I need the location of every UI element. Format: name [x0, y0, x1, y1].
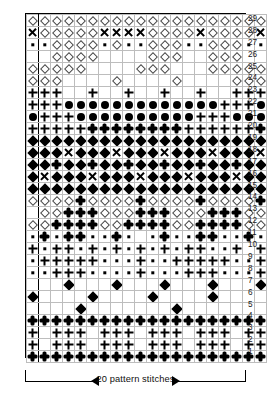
chart-cell[interactable]	[27, 147, 39, 159]
chart-cell[interactable]	[39, 159, 51, 171]
chart-cell[interactable]	[39, 39, 51, 51]
chart-cell[interactable]	[63, 51, 75, 63]
chart-cell[interactable]	[39, 243, 51, 255]
chart-cell[interactable]	[27, 303, 39, 315]
chart-cell[interactable]	[63, 279, 75, 291]
chart-cell[interactable]	[99, 63, 111, 75]
chart-cell[interactable]	[87, 123, 99, 135]
chart-cell[interactable]	[219, 51, 231, 63]
chart-cell[interactable]	[147, 75, 159, 87]
chart-cell[interactable]	[171, 183, 183, 195]
chart-cell[interactable]	[123, 327, 135, 339]
chart-cell[interactable]	[147, 39, 159, 51]
chart-cell[interactable]	[207, 123, 219, 135]
chart-cell[interactable]	[207, 351, 219, 363]
chart-cell[interactable]	[147, 231, 159, 243]
chart-cell[interactable]	[87, 183, 99, 195]
chart-cell[interactable]	[183, 39, 195, 51]
chart-cell[interactable]	[75, 27, 87, 39]
chart-cell[interactable]	[135, 87, 147, 99]
chart-cell[interactable]	[207, 231, 219, 243]
chart-cell[interactable]	[135, 195, 147, 207]
chart-cell[interactable]	[75, 171, 87, 183]
chart-cell[interactable]	[111, 111, 123, 123]
chart-cell[interactable]	[195, 51, 207, 63]
chart-cell[interactable]	[231, 303, 243, 315]
chart-cell[interactable]	[75, 351, 87, 363]
chart-cell[interactable]	[195, 255, 207, 267]
chart-cell[interactable]	[195, 123, 207, 135]
chart-cell[interactable]	[135, 15, 147, 27]
chart-cell[interactable]	[195, 351, 207, 363]
chart-cell[interactable]	[123, 159, 135, 171]
chart-cell[interactable]	[171, 339, 183, 351]
chart-cell[interactable]	[87, 159, 99, 171]
chart-cell[interactable]	[63, 327, 75, 339]
chart-cell[interactable]	[195, 111, 207, 123]
chart-cell[interactable]	[123, 243, 135, 255]
chart-cell[interactable]	[147, 327, 159, 339]
chart-cell[interactable]	[39, 111, 51, 123]
chart-cell[interactable]	[39, 135, 51, 147]
chart-cell[interactable]	[123, 39, 135, 51]
chart-cell[interactable]	[207, 159, 219, 171]
chart-cell[interactable]	[51, 171, 63, 183]
chart-cell[interactable]	[99, 75, 111, 87]
chart-cell[interactable]	[87, 15, 99, 27]
chart-cell[interactable]	[63, 183, 75, 195]
chart-cell[interactable]	[51, 231, 63, 243]
chart-cell[interactable]	[183, 267, 195, 279]
chart-cell[interactable]	[147, 111, 159, 123]
chart-cell[interactable]	[219, 111, 231, 123]
chart-cell[interactable]	[231, 171, 243, 183]
chart-cell[interactable]	[75, 87, 87, 99]
chart-cell[interactable]	[51, 75, 63, 87]
chart-cell[interactable]	[231, 147, 243, 159]
chart-cell[interactable]	[63, 267, 75, 279]
chart-cell[interactable]	[135, 159, 147, 171]
chart-cell[interactable]	[135, 27, 147, 39]
chart-cell[interactable]	[111, 267, 123, 279]
chart-cell[interactable]	[75, 303, 87, 315]
chart-cell[interactable]	[135, 267, 147, 279]
chart-cell[interactable]	[75, 315, 87, 327]
chart-cell[interactable]	[123, 147, 135, 159]
chart-cell[interactable]	[51, 207, 63, 219]
chart-cell[interactable]	[159, 255, 171, 267]
chart-cell[interactable]	[75, 243, 87, 255]
chart-cell[interactable]	[75, 231, 87, 243]
chart-cell[interactable]	[159, 231, 171, 243]
chart-cell[interactable]	[99, 303, 111, 315]
chart-cell[interactable]	[39, 315, 51, 327]
chart-cell[interactable]	[219, 351, 231, 363]
chart-cell[interactable]	[171, 255, 183, 267]
chart-cell[interactable]	[159, 99, 171, 111]
chart-cell[interactable]	[195, 243, 207, 255]
chart-cell[interactable]	[99, 351, 111, 363]
chart-cell[interactable]	[219, 267, 231, 279]
chart-cell[interactable]	[159, 207, 171, 219]
chart-cell[interactable]	[147, 147, 159, 159]
chart-cell[interactable]	[147, 99, 159, 111]
chart-cell[interactable]	[75, 195, 87, 207]
chart-cell[interactable]	[123, 267, 135, 279]
chart-cell[interactable]	[39, 339, 51, 351]
chart-cell[interactable]	[195, 183, 207, 195]
chart-cell[interactable]	[147, 255, 159, 267]
chart-cell[interactable]	[51, 183, 63, 195]
chart-cell[interactable]	[99, 219, 111, 231]
chart-cell[interactable]	[159, 87, 171, 99]
chart-cell[interactable]	[135, 279, 147, 291]
chart-cell[interactable]	[195, 63, 207, 75]
chart-cell[interactable]	[63, 159, 75, 171]
chart-cell[interactable]	[63, 303, 75, 315]
chart-cell[interactable]	[63, 39, 75, 51]
chart-cell[interactable]	[183, 75, 195, 87]
chart-cell[interactable]	[87, 135, 99, 147]
chart-cell[interactable]	[183, 15, 195, 27]
chart-cell[interactable]	[111, 303, 123, 315]
chart-cell[interactable]	[75, 327, 87, 339]
chart-cell[interactable]	[171, 231, 183, 243]
chart-cell[interactable]	[231, 267, 243, 279]
chart-cell[interactable]	[135, 327, 147, 339]
